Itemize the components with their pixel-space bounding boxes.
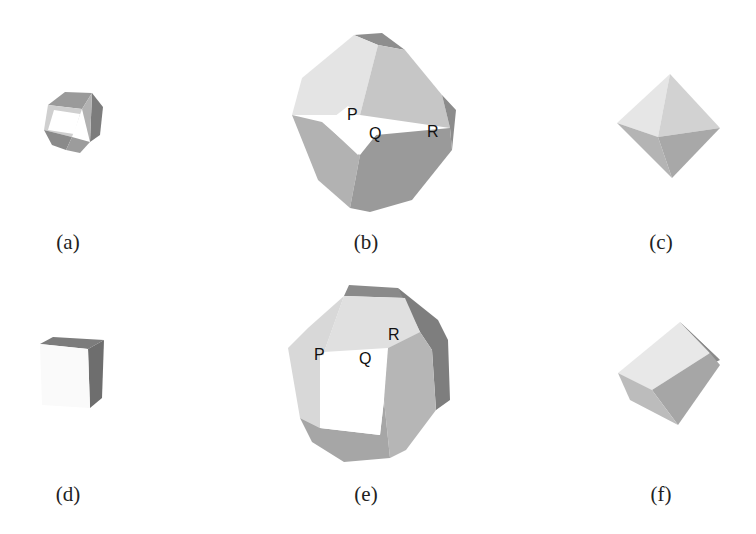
panel-b: P Q R	[280, 30, 470, 220]
truncated-polyhedron-b-icon: P Q R	[280, 30, 470, 220]
caption-d: (d)	[38, 482, 98, 507]
label-p: P	[314, 346, 325, 363]
cube-icon	[610, 315, 730, 435]
cuboctahedron-icon	[30, 80, 120, 170]
label-q: Q	[369, 125, 381, 142]
label-p: P	[347, 106, 358, 123]
caption-c: (c)	[631, 230, 691, 255]
panel-d	[30, 330, 120, 420]
panel-e: P Q R	[280, 280, 470, 470]
panel-c	[610, 70, 730, 190]
caption-e: (e)	[336, 482, 396, 507]
label-r: R	[388, 326, 400, 343]
panel-a	[30, 80, 120, 170]
caption-f: (f)	[631, 482, 691, 507]
label-q: Q	[359, 350, 371, 367]
caption-b: (b)	[336, 230, 396, 255]
caption-a: (a)	[38, 230, 98, 255]
label-r: R	[427, 123, 439, 140]
cube-corner-icon	[30, 330, 120, 420]
panel-f	[610, 315, 730, 435]
octahedron-icon	[610, 70, 730, 190]
truncated-polyhedron-e-icon: P Q R	[280, 280, 470, 470]
